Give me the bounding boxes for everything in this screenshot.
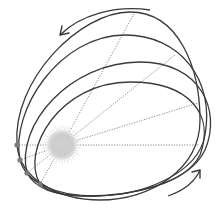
planet-dot <box>17 157 22 162</box>
radial-line <box>62 55 175 145</box>
arrow-bottom-shaft <box>168 170 200 196</box>
sun-icon <box>43 126 81 165</box>
orbit-2 <box>19 35 207 196</box>
planet-dot <box>14 142 19 147</box>
planet-dot <box>24 170 29 175</box>
planet-dot <box>37 181 42 186</box>
direction-arrows <box>60 9 200 196</box>
orbit-diagram <box>0 0 220 209</box>
orbits <box>17 12 211 200</box>
orbit-1 <box>17 12 200 200</box>
orbit-diagram-canvas <box>0 0 220 209</box>
radial-line <box>62 12 135 145</box>
radial-lines <box>17 12 199 184</box>
radial-line <box>62 103 198 145</box>
